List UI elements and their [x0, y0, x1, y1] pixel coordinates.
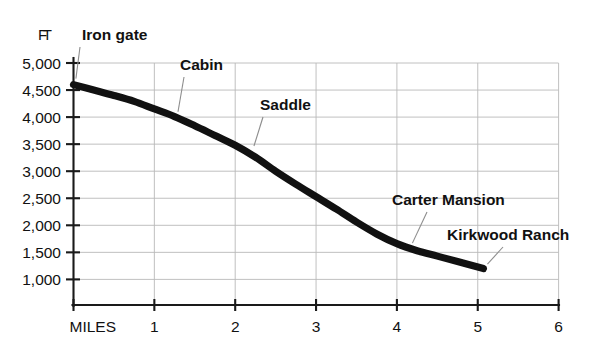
x-axis-tick-labels: MILES123456 — [70, 318, 563, 335]
y-tick-label-4000: 4,000 — [22, 109, 61, 126]
x-tick-label-2: 2 — [231, 318, 240, 335]
elevation-profile-chart: 1,0001,5002,0002,5003,0003,5004,0004,500… — [0, 0, 590, 360]
x-tick-label-5: 5 — [473, 318, 482, 335]
x-tick-label-4: 4 — [393, 318, 402, 335]
y-tick-label-1500: 1,500 — [22, 244, 61, 261]
annotation-leader-lines — [76, 47, 503, 264]
y-axis-tick-labels: 1,0001,5002,0002,5003,0003,5004,0004,500… — [22, 55, 61, 288]
leader-line-cabin — [178, 77, 184, 112]
x-tick-label-1: 1 — [150, 318, 159, 335]
y-tick-label-1000: 1,000 — [22, 271, 61, 288]
leader-line-saddle — [254, 117, 263, 146]
y-tick-label-3000: 3,000 — [22, 163, 61, 180]
chart-canvas: 1,0001,5002,0002,5003,0003,5004,0004,500… — [0, 0, 590, 360]
y-tick-label-3500: 3,500 — [22, 136, 61, 153]
y-tick-label-4500: 4,500 — [22, 82, 61, 99]
annotation-label-carter-mansion: Carter Mansion — [392, 191, 505, 208]
x-tick-label-6: 6 — [554, 318, 563, 335]
x-tick-label-3: 3 — [312, 318, 321, 335]
annotation-label-kirkwood-ranch: Kirkwood Ranch — [447, 226, 569, 243]
annotation-label-iron-gate: Iron gate — [82, 26, 148, 43]
annotation-label-saddle: Saddle — [260, 96, 311, 113]
y-axis-unit-label: FT — [38, 26, 52, 43]
annotation-label-cabin: Cabin — [180, 56, 223, 73]
y-tick-label-5000: 5,000 — [22, 55, 61, 72]
y-tick-label-2000: 2,000 — [22, 217, 61, 234]
annotation-labels: Iron gateCabinSaddleCarter MansionKirkwo… — [82, 26, 569, 243]
leader-line-kirkwood-ranch — [487, 247, 503, 264]
y-tick-label-2500: 2,500 — [22, 190, 61, 207]
x-axis-origin-label: MILES — [70, 318, 117, 335]
leader-line-carter-mansion — [412, 212, 427, 243]
